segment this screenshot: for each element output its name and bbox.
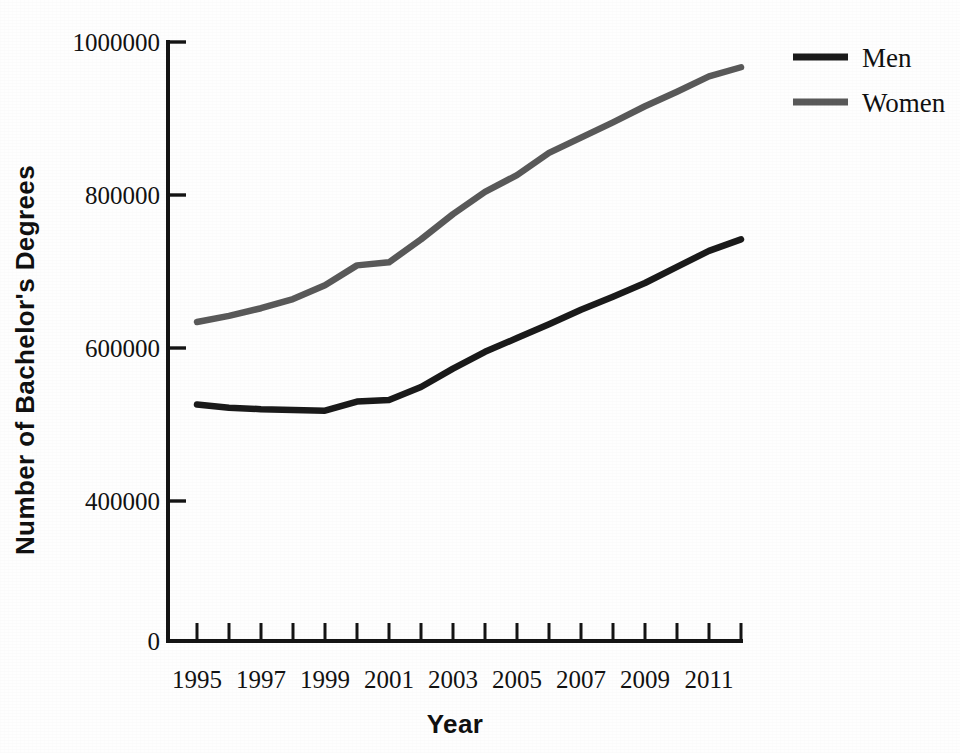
x-tick-label-1999: 1999 bbox=[300, 666, 350, 693]
x-tick-label-2005: 2005 bbox=[492, 666, 542, 693]
legend-label-men: Men bbox=[862, 43, 912, 73]
y-tick-label-800000: 800000 bbox=[85, 182, 160, 209]
y-tick-label-400000: 400000 bbox=[85, 488, 160, 515]
chart-container: Number of Bachelor's Degrees Year 100000… bbox=[0, 0, 960, 753]
y-axis-tick-labels: 1000000 800000 600000 400000 0 bbox=[73, 29, 161, 655]
series-group bbox=[197, 67, 741, 410]
y-axis-ticks bbox=[168, 42, 186, 501]
legend: Men Women bbox=[793, 43, 946, 118]
x-axis-ticks bbox=[197, 623, 741, 641]
axis-spines bbox=[168, 42, 741, 641]
x-tick-label-1995: 1995 bbox=[172, 666, 222, 693]
axis-spine-path bbox=[168, 42, 741, 641]
legend-label-women: Women bbox=[862, 88, 946, 118]
x-tick-label-2001: 2001 bbox=[364, 666, 414, 693]
x-tick-label-2011: 2011 bbox=[684, 666, 733, 693]
y-tick-label-1000000: 1000000 bbox=[73, 29, 161, 56]
x-tick-label-1997: 1997 bbox=[236, 666, 286, 693]
y-axis-title: Number of Bachelor's Degrees bbox=[10, 165, 40, 555]
x-tick-label-2009: 2009 bbox=[620, 666, 670, 693]
y-tick-label-600000: 600000 bbox=[85, 335, 160, 362]
x-tick-label-2007: 2007 bbox=[556, 666, 606, 693]
x-tick-label-2003: 2003 bbox=[428, 666, 478, 693]
line-chart-figure: Number of Bachelor's Degrees Year 100000… bbox=[0, 0, 960, 753]
x-axis-title: Year bbox=[427, 709, 484, 739]
y-tick-label-0: 0 bbox=[148, 628, 161, 655]
series-line-men bbox=[197, 239, 741, 410]
x-axis-tick-labels: 1995 1997 1999 2001 2003 2005 2007 2009 … bbox=[172, 666, 734, 693]
series-line-women bbox=[197, 67, 741, 322]
